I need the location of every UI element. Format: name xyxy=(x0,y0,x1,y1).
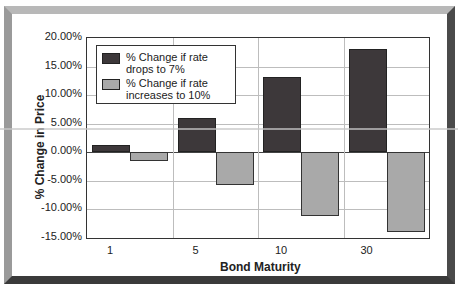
legend-label: % Change if rate drops to 7% xyxy=(126,51,230,75)
bar-rate-increase-5 xyxy=(216,152,254,185)
x-tick-label: 30 xyxy=(347,244,387,256)
bar-rate-increase-1 xyxy=(130,152,168,161)
bar-rate-drop-30 xyxy=(349,49,387,152)
x-tick-label: 10 xyxy=(261,244,301,256)
bar-rate-increase-10 xyxy=(301,152,339,215)
legend-swatch-dark xyxy=(102,53,120,64)
x-axis-label: Bond Maturity xyxy=(220,260,301,274)
x-tick-label: 1 xyxy=(90,244,130,256)
category-divider xyxy=(344,38,345,238)
x-tick-label: 5 xyxy=(176,244,216,256)
y-axis-label: % Change in Price xyxy=(33,87,47,207)
bar-rate-drop-10 xyxy=(263,77,301,152)
legend: % Change if rate drops to 7% % Change if… xyxy=(96,45,236,104)
bar-rate-increase-30 xyxy=(387,152,425,231)
legend-item-increase: % Change if rate increases to 10% xyxy=(102,77,230,101)
y-tick-label: 15.00% xyxy=(8,59,82,71)
y-tick-label: -15.00% xyxy=(8,230,82,242)
bar-rate-drop-5 xyxy=(178,118,216,152)
bar-rate-drop-1 xyxy=(92,145,130,152)
y-tick-label: 20.00% xyxy=(8,30,82,42)
legend-swatch-light xyxy=(102,79,120,90)
category-divider xyxy=(258,38,259,238)
legend-item-drop: % Change if rate drops to 7% xyxy=(102,51,230,75)
scan-artifact xyxy=(0,128,458,130)
legend-label: % Change if rate increases to 10% xyxy=(126,77,230,101)
